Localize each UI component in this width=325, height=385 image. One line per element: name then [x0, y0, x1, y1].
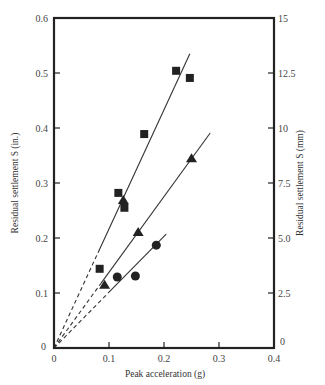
y-tick-label-right: 0	[280, 336, 285, 347]
x-tick-label: 0	[52, 353, 57, 364]
square-marker	[140, 130, 148, 138]
x-tick-label: 0.3	[213, 353, 226, 364]
y-tick-label-left: 0.1	[36, 288, 49, 299]
y-tick-label-left: 0.5	[36, 68, 49, 79]
circle-marker	[131, 271, 140, 280]
fit-line-dashed-circles	[54, 292, 109, 348]
square-marker	[186, 74, 194, 82]
x-axis-title: Peak acceleration (g)	[125, 369, 205, 380]
y-tick-label-right: 2.5	[278, 288, 291, 299]
square-marker	[114, 189, 122, 197]
square-marker	[96, 265, 104, 273]
triangle-marker	[133, 227, 144, 236]
y-tick-label-right: 15	[278, 13, 288, 24]
y-tick-label-right: 10	[278, 123, 288, 134]
y-tick-label-right: 5.0	[278, 233, 291, 244]
y-tick-label-right: 7.5	[278, 178, 291, 189]
triangle-marker	[186, 153, 197, 162]
circle-marker	[113, 273, 122, 282]
x-tick-label: 0.1	[103, 353, 116, 364]
circle-marker	[152, 241, 161, 250]
y-tick-label-left: 0.2	[36, 233, 49, 244]
plot-area	[54, 54, 210, 348]
axes: 00.10.20.30.400.10.20.30.40.50.602.55.07…	[36, 13, 296, 365]
x-tick-label: 0.2	[158, 353, 171, 364]
y-tick-label-right: 12.5	[278, 68, 296, 79]
square-marker	[120, 204, 128, 212]
fit-line-triangles	[101, 133, 210, 284]
fit-line-squares	[98, 54, 190, 253]
fit-line-dashed-squares	[54, 253, 98, 348]
plot-frame	[54, 18, 274, 348]
fit-line-dashed-triangles	[54, 284, 101, 348]
y-tick-label-left: 0.4	[36, 123, 49, 134]
y-tick-label-left: 0	[41, 341, 46, 352]
square-marker	[172, 67, 180, 75]
y-axis-title-left: Residual settlement S (in.)	[10, 133, 21, 234]
y-tick-label-left: 0.6	[36, 13, 49, 24]
x-tick-label: 0.4	[268, 353, 281, 364]
y-axis-title-right: Residual settlement S (mm)	[295, 130, 306, 236]
settlement-chart: 00.10.20.30.400.10.20.30.40.50.602.55.07…	[0, 0, 325, 385]
y-tick-label-left: 0.3	[36, 178, 49, 189]
